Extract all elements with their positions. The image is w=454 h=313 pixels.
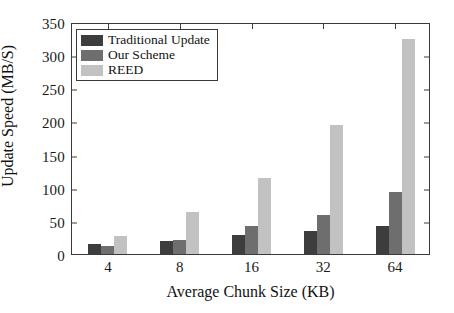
- y-tick-mark: [424, 123, 429, 124]
- legend-swatch-reed: [81, 65, 103, 76]
- y-tick-mark: [424, 222, 429, 223]
- y-tick-label: 300: [42, 49, 72, 66]
- bar-traditional-update-4: [88, 244, 101, 254]
- bar-our-scheme-32: [317, 215, 330, 254]
- x-tick-label: 8: [176, 259, 184, 276]
- legend-item: Traditional Update: [81, 33, 210, 47]
- y-tick-label: 200: [42, 115, 72, 132]
- y-tick-mark: [72, 156, 77, 157]
- y-tick-mark: [424, 90, 429, 91]
- y-tick-mark: [72, 123, 77, 124]
- y-tick-mark: [424, 189, 429, 190]
- y-axis-title: Update Speed (MB/S): [0, 0, 20, 232]
- x-tick-label: 16: [244, 259, 259, 276]
- bar-traditional-update-32: [304, 231, 317, 254]
- legend-item: Our Scheme: [81, 48, 210, 62]
- x-tick-mark: [395, 24, 396, 29]
- legend-swatch-our-scheme: [81, 50, 103, 61]
- x-tick-mark: [323, 24, 324, 29]
- y-tick-label: 350: [42, 16, 72, 33]
- bar-reed-16: [258, 178, 271, 254]
- y-tick-mark: [72, 222, 77, 223]
- bar-our-scheme-64: [389, 192, 402, 254]
- bar-reed-4: [114, 236, 127, 254]
- bar-traditional-update-8: [160, 241, 173, 254]
- x-axis-title: Average Chunk Size (KB): [71, 283, 430, 301]
- bar-chart-figure: Traditional Update Our Scheme REED 05010…: [0, 0, 454, 313]
- bar-traditional-update-64: [376, 226, 389, 255]
- x-tick-mark: [252, 24, 253, 29]
- y-tick-label: 150: [42, 148, 72, 165]
- chart-legend: Traditional Update Our Scheme REED: [76, 29, 218, 81]
- y-tick-label: 50: [50, 214, 72, 231]
- legend-label-our-scheme: Our Scheme: [108, 48, 175, 62]
- bar-traditional-update-16: [232, 235, 245, 254]
- bar-our-scheme-16: [245, 226, 258, 254]
- legend-item: REED: [81, 63, 210, 77]
- legend-swatch-traditional-update: [81, 35, 103, 46]
- y-tick-mark: [72, 189, 77, 190]
- bar-reed-32: [330, 125, 343, 254]
- y-tick-mark: [72, 90, 77, 91]
- y-tick-label: 100: [42, 181, 72, 198]
- plot-area: Traditional Update Our Scheme REED 05010…: [71, 23, 430, 255]
- bar-reed-8: [186, 212, 199, 254]
- legend-label-reed: REED: [108, 63, 143, 77]
- y-tick-mark: [424, 57, 429, 58]
- x-tick-label: 64: [388, 259, 403, 276]
- bar-reed-64: [402, 39, 415, 254]
- legend-label-traditional-update: Traditional Update: [108, 33, 210, 47]
- y-tick-mark: [424, 156, 429, 157]
- y-tick-label: 0: [57, 248, 72, 265]
- x-tick-label: 4: [104, 259, 112, 276]
- bar-our-scheme-4: [101, 246, 114, 254]
- bar-our-scheme-8: [173, 240, 186, 254]
- y-tick-label: 250: [42, 82, 72, 99]
- x-tick-label: 32: [316, 259, 331, 276]
